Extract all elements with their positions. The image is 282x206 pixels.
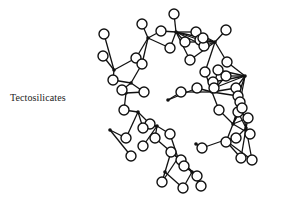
silicon-atom — [231, 122, 235, 126]
oxygen-atom — [150, 133, 160, 143]
oxygen-atom — [137, 59, 147, 69]
oxygen-atom — [214, 105, 224, 115]
oxygen-atom — [176, 87, 186, 97]
oxygen-atom — [137, 19, 147, 29]
oxygen-atom — [196, 181, 206, 191]
silicon-atom — [166, 98, 170, 102]
oxygen-atom — [200, 67, 210, 77]
oxygen-atom — [117, 85, 127, 95]
oxygen-atom — [197, 143, 207, 153]
oxygen-atom — [237, 103, 247, 113]
oxygen-atom — [166, 147, 176, 157]
oxygen-atom — [192, 171, 202, 181]
silicon-atom — [146, 36, 150, 40]
oxygen-atom — [192, 83, 202, 93]
silicon-atom — [155, 124, 159, 128]
oxygen-atom — [119, 105, 129, 115]
silicon-atom — [112, 68, 116, 72]
oxygen-atom — [236, 153, 246, 163]
oxygen-atom — [121, 133, 131, 143]
oxygen-atom — [138, 141, 148, 151]
oxygen-atom — [178, 183, 188, 193]
oxygen-atom — [165, 129, 175, 139]
oxygen-atom — [245, 129, 255, 139]
oxygen-atom — [139, 87, 149, 97]
oxygen-atom — [156, 26, 166, 36]
oxygen-atom — [157, 177, 167, 187]
oxygen-atom — [126, 151, 136, 161]
atoms — [98, 9, 257, 193]
oxygen-atom — [98, 51, 108, 61]
oxygen-atom — [221, 137, 231, 147]
oxygen-atom — [185, 55, 195, 65]
oxygen-atom — [221, 25, 231, 35]
silicon-atom — [129, 81, 133, 85]
oxygen-atom — [180, 37, 190, 47]
oxygen-atom — [221, 71, 231, 81]
oxygen-atom — [169, 9, 179, 19]
silicon-atom — [136, 110, 140, 114]
oxygen-atom — [209, 83, 219, 93]
oxygen-atom — [243, 113, 253, 123]
oxygen-atom — [138, 123, 148, 133]
oxygen-atom — [108, 75, 118, 85]
silicon-atom — [174, 30, 178, 34]
oxygen-atom — [179, 161, 189, 171]
silicon-atom — [108, 128, 112, 132]
oxygen-atom — [222, 57, 232, 67]
silicon-atom — [243, 74, 247, 78]
oxygen-atom — [231, 133, 241, 143]
tectosilicate-structure-diagram — [0, 0, 282, 206]
oxygen-atom — [198, 33, 208, 43]
oxygen-atom — [247, 155, 257, 165]
silicon-atom — [213, 40, 217, 44]
oxygen-atom — [99, 29, 109, 39]
silicon-atom — [163, 170, 167, 174]
oxygen-atom — [165, 43, 175, 53]
